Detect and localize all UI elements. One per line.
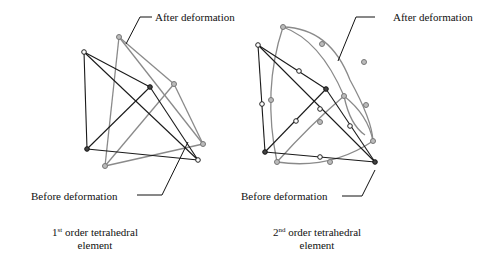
left-before-deformation-tetrahedron <box>84 52 198 160</box>
left-before-deformation-label: Before deformation <box>31 190 117 202</box>
right-caption-order-sup: nd <box>278 226 285 234</box>
left-caption-order-sup: st <box>58 226 63 234</box>
right-caption: 2nd order tetrahedral element <box>262 226 372 252</box>
left-nodes <box>82 35 206 169</box>
right-before-deformation-label: Before deformation <box>241 190 327 202</box>
right-before-deformation-tetrahedron <box>258 45 375 162</box>
right-after-deformation-tetrahedron <box>271 27 373 164</box>
right-after-deformation-label: After deformation <box>393 11 473 23</box>
left-caption-line2: element <box>78 239 113 251</box>
left-after-deformation-tetrahedron <box>105 37 203 166</box>
left-after-deformation-label: After deformation <box>155 11 235 23</box>
left-leader-lines <box>126 17 188 195</box>
right-caption-line1: order tetrahedral <box>285 226 361 238</box>
right-caption-line2: element <box>300 239 335 251</box>
left-caption-line1: order tetrahedral <box>62 226 138 238</box>
left-caption-order-num: 1 <box>52 226 58 238</box>
left-caption: 1st order tetrahedral element <box>40 226 150 252</box>
tetrahedral-elements-diagram <box>0 0 501 263</box>
right-leader-lines <box>338 17 375 196</box>
